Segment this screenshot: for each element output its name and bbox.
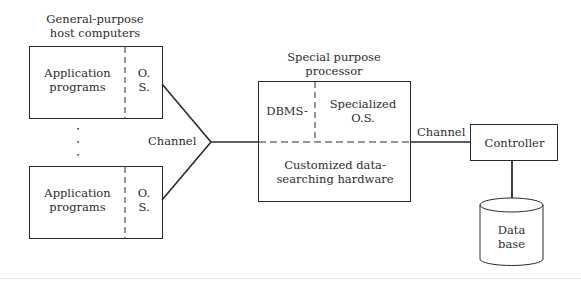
diagram-canvas: General-purpose host computers Applicati…: [0, 0, 581, 287]
hardware-line1: Customized data-: [259, 158, 411, 172]
database-line2: base: [480, 237, 543, 251]
processor-title: Special purpose processor: [259, 50, 409, 78]
host-bottom-app-label: Application programs: [30, 186, 125, 214]
host-top-os-label: O. S.: [126, 66, 162, 94]
ellipsis-dots: • • •: [68, 122, 88, 161]
specialized-os-line1: Specialized: [316, 97, 410, 111]
host-top-app-label: Application programs: [30, 66, 125, 94]
host-bottom-app-line1: Application: [30, 186, 125, 200]
specialized-os-label: Specialized O.S.: [316, 97, 410, 125]
dbms-label: DBMS-: [259, 104, 315, 118]
database-label: Data base: [480, 223, 543, 251]
host-top-app-line1: Application: [30, 66, 125, 80]
dot-2: •: [68, 135, 88, 148]
host-group-title-line1: General-purpose: [20, 12, 170, 26]
host-group-title: General-purpose host computers: [20, 12, 170, 40]
dot-1: •: [68, 122, 88, 135]
database-line1: Data: [480, 223, 543, 237]
host-top-os-line2: S.: [126, 80, 162, 94]
host-bottom-os-line2: S.: [126, 200, 162, 214]
specialized-os-line2: O.S.: [316, 111, 410, 125]
host-bottom-app-line2: programs: [30, 200, 125, 214]
dot-3: •: [68, 148, 88, 161]
page-edge-rule: [0, 278, 581, 279]
processor-title-line1: Special purpose: [259, 50, 409, 64]
host-top-os-line1: O.: [126, 66, 162, 80]
channel-left-label: Channel: [148, 134, 196, 148]
processor-title-line2: processor: [259, 64, 409, 78]
hardware-line2: searching hardware: [259, 172, 411, 186]
host-group-title-line2: host computers: [20, 26, 170, 40]
controller-label: Controller: [471, 136, 558, 150]
host-bottom-os-line1: O.: [126, 186, 162, 200]
channel-line-bottom: [162, 142, 211, 200]
hardware-label: Customized data- searching hardware: [259, 158, 411, 186]
host-bottom-os-label: O. S.: [126, 186, 162, 214]
channel-right-label: Channel: [417, 125, 465, 139]
host-top-app-line2: programs: [30, 80, 125, 94]
